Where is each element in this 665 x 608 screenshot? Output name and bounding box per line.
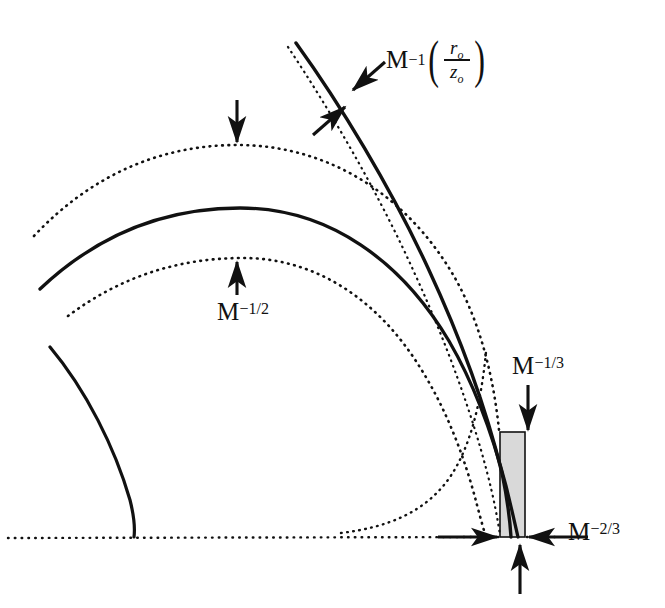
label-head-height: M−1/3 bbox=[512, 352, 564, 380]
outer-solid-shock bbox=[296, 43, 511, 537]
label-shell-thickness-exponent: −1/2 bbox=[239, 300, 268, 317]
left-paren: ( bbox=[429, 41, 440, 78]
outer-solid-shock-dotted-pair bbox=[288, 47, 500, 535]
fraction-numerator: r bbox=[450, 37, 457, 58]
figure-canvas: M−1 ( ro zo ) M−1/2 M−1/3 M−2/3 bbox=[0, 0, 665, 608]
fraction-denominator-sub: o bbox=[458, 71, 464, 85]
ratio-fraction: ro zo bbox=[444, 38, 470, 81]
inner-dotted-shell bbox=[68, 258, 486, 537]
label-head-width: M−2/3 bbox=[568, 518, 620, 546]
right-paren: ) bbox=[474, 41, 485, 78]
label-head-width-base: M bbox=[568, 518, 590, 545]
fraction-denominator: z bbox=[450, 61, 457, 82]
outer-dotted-shell bbox=[34, 145, 499, 430]
label-head-height-base: M bbox=[512, 352, 534, 379]
label-outer-shell: M−1 ( ro zo ) bbox=[386, 38, 488, 81]
label-outer-shell-base: M bbox=[386, 46, 408, 74]
diagram-svg bbox=[0, 0, 665, 608]
throat-dotted-curve bbox=[341, 352, 486, 533]
axis-dotted-line bbox=[8, 537, 500, 538]
inner-cavity-arc bbox=[50, 347, 134, 537]
label-shell-thickness: M−1/2 bbox=[217, 298, 269, 326]
arrow-outer-shell-upper bbox=[353, 62, 385, 90]
label-shell-thickness-base: M bbox=[217, 298, 239, 325]
label-head-width-exponent: −2/3 bbox=[590, 520, 619, 537]
middle-solid-shock bbox=[40, 208, 518, 537]
label-head-height-exponent: −1/3 bbox=[534, 354, 563, 371]
